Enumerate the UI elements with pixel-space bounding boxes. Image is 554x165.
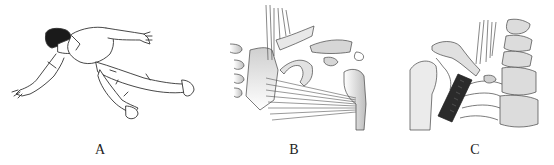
figure-panel-c: C xyxy=(380,0,554,165)
figure-panel-b: B xyxy=(200,0,380,165)
panel-label-a: A xyxy=(95,142,105,158)
panel-label-c: C xyxy=(470,142,479,158)
figure-panel-a: A xyxy=(0,0,200,165)
shoulder-muscle-illustration xyxy=(200,0,380,165)
panel-label-b: B xyxy=(289,142,298,158)
shoulder-spine-illustration xyxy=(380,0,554,165)
falling-person-illustration xyxy=(0,0,200,165)
